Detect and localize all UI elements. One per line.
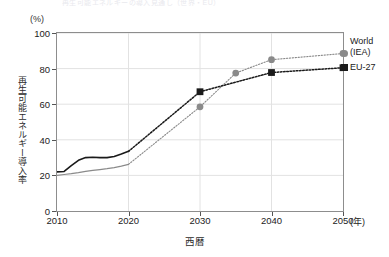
marker-eu-2040 [268, 69, 275, 76]
legend-item-world: World (IEA) [350, 36, 373, 57]
y-tick-label: 60 [24, 99, 50, 110]
legend-swatch-world [341, 50, 348, 57]
y-tick-mark [52, 211, 56, 212]
y-tick-mark [52, 69, 56, 70]
legend-swatch-eu27 [341, 64, 348, 71]
x-axis-unit-label: (年) [350, 215, 365, 228]
x-tick-label: 2020 [118, 215, 139, 226]
marker-world-2040 [268, 56, 275, 63]
x-axis-title: 西暦 [0, 234, 389, 248]
x-tick-label: 2030 [189, 215, 210, 226]
legend-item-eu27: EU-27 [350, 62, 376, 73]
marker-world-2030 [197, 103, 204, 110]
y-axis-title: 再生可能エネルギー導入率 [13, 55, 27, 205]
legend-world-line1: World [350, 36, 373, 47]
x-tick-label: 2040 [261, 215, 282, 226]
y-tick-mark [52, 104, 56, 105]
x-tick-mark [343, 212, 344, 216]
plot-area [56, 32, 344, 212]
y-tick-label: 20 [24, 170, 50, 181]
marker-world-2035 [232, 70, 239, 77]
chart-title-remnant: 再生可能エネルギーの導入見通し（世界・EU） [62, 0, 337, 6]
x-tick-mark [57, 212, 58, 216]
series-eu-historical-line [57, 151, 129, 171]
y-tick-label: 40 [24, 134, 50, 145]
x-tick-mark [129, 212, 130, 216]
legend-world-line2: (IEA) [350, 47, 373, 58]
marker-eu-2030 [197, 88, 204, 95]
series-world-historical-line [57, 164, 129, 175]
x-tick-label: 2010 [46, 215, 67, 226]
y-tick-mark [52, 33, 56, 34]
y-tick-mark [52, 140, 56, 141]
legend-eu-label: EU-27 [350, 62, 376, 72]
y-tick-label: 100 [24, 28, 50, 39]
x-tick-mark [272, 212, 273, 216]
x-tick-mark [200, 212, 201, 216]
chart-canvas [57, 33, 343, 211]
y-axis-unit-label: (%) [30, 14, 44, 24]
y-tick-mark [52, 175, 56, 176]
y-tick-label: 80 [24, 63, 50, 74]
chart-page: 再生可能エネルギーの導入見通し（世界・EU） (%) 再生可能エネルギー導入率 … [0, 0, 389, 257]
